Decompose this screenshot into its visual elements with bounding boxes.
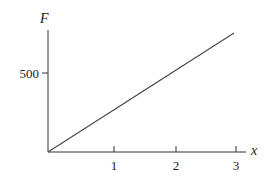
y-axis-label: F — [39, 11, 49, 26]
x-tick-label-3: 3 — [233, 158, 240, 173]
data-line-F — [48, 33, 234, 152]
x-axis-label: x — [250, 143, 258, 158]
chart: F 500 1 2 3 x — [0, 0, 274, 185]
x-tick-label-2: 2 — [173, 158, 180, 173]
y-tick-label-500: 500 — [20, 66, 40, 81]
x-tick-label-1: 1 — [111, 158, 118, 173]
